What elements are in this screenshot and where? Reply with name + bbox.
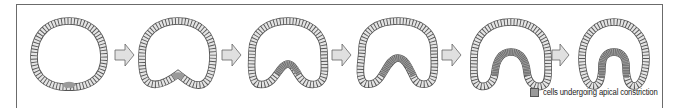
stage-4 bbox=[360, 21, 434, 84]
arrow-icon bbox=[222, 44, 241, 66]
arrow-icon bbox=[115, 44, 134, 66]
stage-6 bbox=[582, 22, 646, 86]
arrow-icon bbox=[442, 44, 461, 66]
stage-5 bbox=[474, 22, 548, 86]
stage-1 bbox=[34, 21, 104, 87]
constriction-swatch bbox=[530, 88, 539, 97]
arrow-icon bbox=[332, 44, 351, 66]
legend: cells undergoing apical constriction bbox=[530, 87, 668, 97]
legend-label: cells undergoing apical constriction bbox=[543, 87, 658, 97]
stage-2 bbox=[142, 21, 213, 85]
arrow-icon bbox=[552, 44, 569, 66]
stage-3 bbox=[252, 21, 325, 85]
